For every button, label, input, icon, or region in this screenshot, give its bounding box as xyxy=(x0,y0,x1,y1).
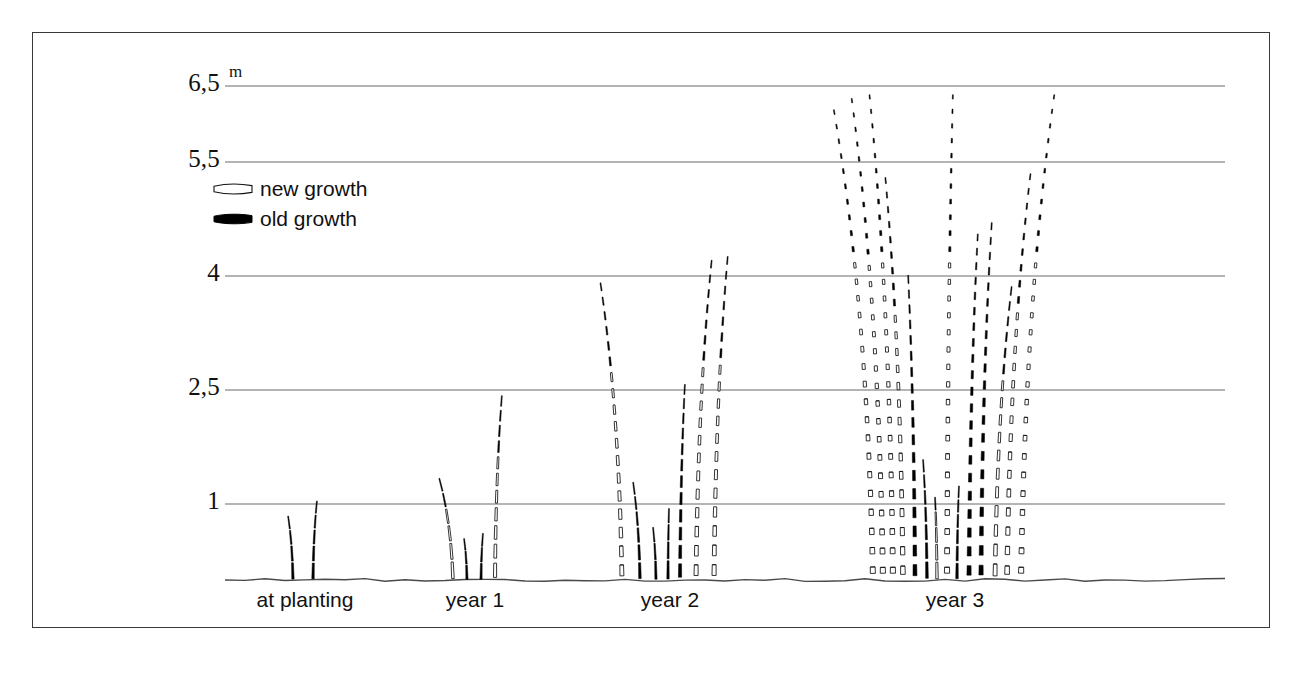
culm-internode xyxy=(703,351,705,360)
culm-internode xyxy=(855,127,857,132)
culm-internode xyxy=(885,177,887,183)
culm-internode xyxy=(1021,472,1025,478)
culm-internode xyxy=(994,544,998,556)
culm-internode xyxy=(996,468,999,479)
culm-internode xyxy=(702,368,704,377)
culm-internode xyxy=(682,413,684,424)
culm-internode xyxy=(701,384,704,393)
culm-internode xyxy=(1008,452,1012,460)
culm-internode xyxy=(712,565,716,576)
culm-internode xyxy=(721,333,723,342)
culm-internode xyxy=(866,435,870,441)
culm-internode xyxy=(869,95,870,99)
culm-internode xyxy=(890,252,892,259)
legend-symbols-group xyxy=(214,184,252,224)
culm-internode xyxy=(609,357,612,366)
culm-internode xyxy=(1005,332,1007,341)
culm-internode xyxy=(1017,296,1020,303)
culm-internode xyxy=(719,365,721,374)
culm-internode xyxy=(878,473,882,479)
culm-internode xyxy=(970,421,973,430)
culm-internode xyxy=(861,187,863,192)
culm-internode xyxy=(1000,398,1003,408)
culm-internode xyxy=(985,331,987,339)
culm-internode xyxy=(838,139,840,144)
culm-internode xyxy=(634,496,637,509)
culm-internode xyxy=(1026,203,1028,209)
culm-old-0-0 xyxy=(288,516,294,579)
culm-internode xyxy=(714,488,717,498)
culm-internode xyxy=(945,529,950,535)
culm-internode xyxy=(481,547,483,562)
culm-internode xyxy=(448,526,451,541)
culm-internode xyxy=(833,110,835,115)
culm-internode xyxy=(888,435,892,441)
culm-internode xyxy=(678,564,681,577)
culm-internode xyxy=(889,236,891,243)
culm-internode xyxy=(910,351,912,360)
culm-internode xyxy=(908,275,909,283)
culm-new-3-12 xyxy=(1005,174,1031,575)
culm-internode xyxy=(950,199,952,204)
culm-internode xyxy=(980,488,983,497)
culm-internode xyxy=(870,547,875,553)
culm-internode xyxy=(1051,109,1053,114)
culm-internode xyxy=(880,529,885,535)
culm-internode xyxy=(724,286,726,294)
culm-internode xyxy=(725,271,727,279)
culm-internode xyxy=(619,527,623,538)
culm-internode xyxy=(946,417,950,423)
culm-internode xyxy=(876,401,880,407)
culm-new-3-13 xyxy=(1019,95,1055,574)
culm-internode xyxy=(913,565,917,576)
culm-internode xyxy=(464,539,466,551)
culm-internode xyxy=(633,482,636,494)
culm-internode xyxy=(989,252,991,260)
culm-internode xyxy=(445,509,449,523)
culm-internode xyxy=(908,290,909,298)
culm-internode xyxy=(668,524,670,540)
culm-internode xyxy=(1016,313,1019,320)
culm-internode xyxy=(695,526,699,536)
culm-internode xyxy=(936,544,938,560)
culm-internode xyxy=(1047,138,1049,143)
culm-internode xyxy=(706,305,708,313)
culm-old-1-2 xyxy=(480,533,484,579)
culm-internode xyxy=(944,567,949,573)
culm-internode xyxy=(451,562,454,579)
culm-internode xyxy=(716,434,719,444)
culm-internode xyxy=(971,371,973,379)
culm-internode xyxy=(957,514,959,527)
culm-internode xyxy=(620,565,624,576)
culm-internode xyxy=(946,435,950,441)
bamboo-growth-chart xyxy=(0,0,1301,676)
culm-internode xyxy=(723,301,725,310)
culm-internode xyxy=(1022,454,1026,460)
culm-internode xyxy=(620,546,624,557)
culm-internode xyxy=(1013,363,1016,370)
culm-internode xyxy=(1006,508,1010,516)
culm-internode xyxy=(1021,491,1025,497)
culm-internode xyxy=(901,566,906,574)
culm-internode xyxy=(466,565,468,579)
culm-internode xyxy=(851,98,853,102)
legend-swatch-new-growth-icon xyxy=(214,184,252,194)
culm-internode xyxy=(935,528,937,543)
culm-new-3-6 xyxy=(935,497,939,579)
culm-internode xyxy=(880,231,882,236)
culm-internode xyxy=(911,367,913,376)
culm-internode xyxy=(958,486,959,498)
culm-internode xyxy=(1015,329,1018,336)
culm-internode xyxy=(604,312,606,321)
culm-internode xyxy=(602,297,604,305)
culm-old-3-9 xyxy=(967,234,978,575)
culm-internode xyxy=(987,298,989,306)
culm-new-2-6 xyxy=(712,256,728,575)
culm-internode xyxy=(984,364,986,372)
culm-internode xyxy=(923,460,925,473)
culm-internode xyxy=(870,109,871,114)
culm-internode xyxy=(853,113,855,118)
culm-internode xyxy=(1023,233,1025,240)
culm-internode xyxy=(717,399,720,408)
culm-internode xyxy=(313,530,315,544)
